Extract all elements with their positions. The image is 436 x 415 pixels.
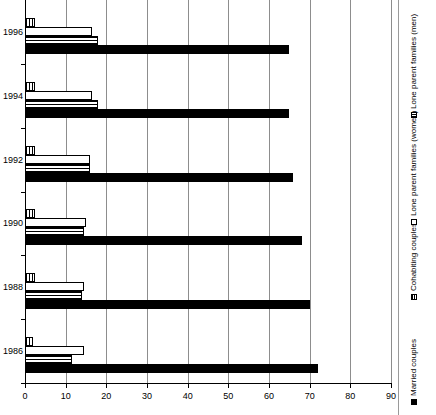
bar-married-1996	[25, 45, 289, 54]
y-tick-1996	[21, 64, 26, 65]
bar-married-1986	[25, 364, 318, 373]
x-axis-line	[25, 383, 391, 384]
y-axis-label-1986: 1986	[0, 346, 23, 356]
legend-label-lonemen: Lone parent families (men)	[409, 14, 418, 109]
bar-lonewomen-1986	[25, 346, 84, 355]
x-tick-label-60: 60	[264, 391, 274, 401]
x-tick-40	[188, 383, 189, 388]
legend-swatch-cohab-icon	[411, 294, 417, 300]
bar-lonewomen-1994	[25, 91, 92, 100]
x-tick-label-20: 20	[101, 391, 111, 401]
bar-lonewomen-1988	[25, 282, 84, 291]
bar-lonemen-1992	[25, 146, 35, 155]
legend-item-cohab: Cohabiting couples	[409, 223, 418, 300]
plot-area	[25, 0, 391, 383]
x-tick-60	[269, 383, 270, 388]
bar-cohab-1986	[25, 355, 72, 364]
bar-married-1988	[25, 300, 310, 309]
bar-cohab-1992	[25, 164, 90, 173]
x-tick-label-70: 70	[305, 391, 315, 401]
x-tick-label-10: 10	[61, 391, 71, 401]
x-tick-30	[147, 383, 148, 388]
bar-chart: 0102030405060708090 19861988199019921994…	[0, 0, 436, 415]
x-tick-10	[66, 383, 67, 388]
legend-label-cohab: Cohabiting couples	[409, 223, 418, 291]
gridline-70	[310, 0, 311, 383]
bar-lonemen-1994	[25, 82, 35, 91]
bar-lonemen-1990	[25, 209, 35, 218]
bar-lonewomen-1992	[25, 155, 90, 164]
x-tick-label-0: 0	[22, 391, 27, 401]
gridline-20	[106, 0, 107, 383]
legend-item-married: Married couples	[409, 339, 418, 405]
x-tick-label-40: 40	[183, 391, 193, 401]
x-tick-20	[106, 383, 107, 388]
bar-cohab-1994	[25, 100, 98, 109]
bar-lonewomen-1996	[25, 27, 92, 36]
bar-lonemen-1986	[25, 337, 33, 346]
gridline-40	[188, 0, 189, 383]
gridline-60	[269, 0, 270, 383]
x-tick-label-50: 50	[223, 391, 233, 401]
y-axis-label-1994: 1994	[0, 91, 23, 101]
gridline-30	[147, 0, 148, 383]
legend-item-lonewomen: Lone parent families (women)	[409, 111, 418, 225]
legend-label-lonewomen: Lone parent families (women)	[409, 111, 418, 216]
x-tick-90	[391, 383, 392, 388]
y-axis-label-1992: 1992	[0, 155, 23, 165]
bar-lonemen-1996	[25, 18, 35, 27]
x-tick-80	[350, 383, 351, 388]
y-tick-1990	[21, 255, 26, 256]
y-tick-1992	[21, 192, 26, 193]
legend-swatch-lonemen-icon	[411, 112, 417, 118]
x-tick-label-30: 30	[142, 391, 152, 401]
gridline-50	[228, 0, 229, 383]
bar-cohab-1996	[25, 36, 98, 45]
gridline-90	[391, 0, 392, 383]
y-tick-1994	[21, 128, 26, 129]
bar-married-1990	[25, 236, 302, 245]
chart-legend: Married couplesCohabiting couplesLone pa…	[398, 0, 436, 415]
x-tick-70	[310, 383, 311, 388]
legend-label-married: Married couples	[409, 339, 418, 396]
gridline-80	[350, 0, 351, 383]
y-axis-label-1988: 1988	[0, 282, 23, 292]
bar-lonewomen-1990	[25, 218, 86, 227]
y-axis-label-1996: 1996	[0, 27, 23, 37]
legend-swatch-married-icon	[411, 399, 417, 405]
bar-cohab-1990	[25, 227, 84, 236]
x-tick-50	[228, 383, 229, 388]
bar-lonemen-1988	[25, 273, 35, 282]
y-axis-label-1990: 1990	[0, 218, 23, 228]
bar-cohab-1988	[25, 291, 82, 300]
legend-item-lonemen: Lone parent families (men)	[409, 14, 418, 118]
legend-swatch-lonewomen-icon	[411, 219, 417, 225]
y-tick-1986	[21, 383, 26, 384]
x-tick-label-90: 90	[386, 391, 396, 401]
x-tick-label-80: 80	[345, 391, 355, 401]
gridline-10	[66, 0, 67, 383]
bar-married-1992	[25, 173, 293, 182]
bar-married-1994	[25, 109, 289, 118]
y-tick-1988	[21, 319, 26, 320]
